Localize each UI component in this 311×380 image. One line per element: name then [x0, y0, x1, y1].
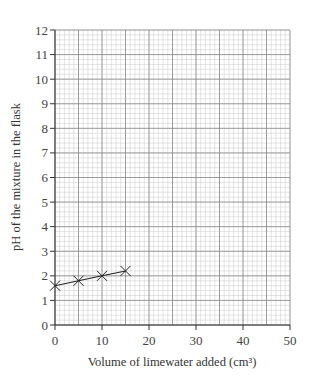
x-tick-label: 0: [52, 333, 59, 348]
y-tick-label: 9: [42, 96, 49, 111]
y-tick-label: 0: [42, 318, 49, 333]
data-series: [50, 266, 131, 291]
x-tick-label: 30: [190, 333, 203, 348]
y-tick-label: 10: [35, 72, 48, 87]
data-line: [55, 271, 126, 286]
y-tick-label: 6: [42, 170, 49, 185]
x-tick-label: 10: [96, 333, 109, 348]
y-tick-label: 12: [35, 23, 48, 38]
y-axis-title: pH of the mixture in the flask: [9, 102, 23, 251]
x-tick-label: 20: [143, 333, 156, 348]
y-tick-label: 7: [42, 145, 49, 160]
x-tick-label: 50: [284, 333, 297, 348]
x-axis-title: Volume of limewater added (cm³): [88, 355, 257, 369]
y-tick-label: 8: [42, 121, 49, 136]
y-tick-label: 2: [42, 268, 49, 283]
y-tick-label: 5: [42, 195, 49, 210]
y-tick-label: 11: [35, 47, 48, 62]
ph-chart: 012345678910111201020304050 Volume of li…: [0, 0, 311, 380]
y-tick-label: 1: [42, 293, 49, 308]
y-tick-label: 4: [42, 219, 49, 234]
x-tick-label: 40: [237, 333, 250, 348]
y-tick-label: 3: [42, 244, 49, 259]
axes: [50, 30, 290, 330]
